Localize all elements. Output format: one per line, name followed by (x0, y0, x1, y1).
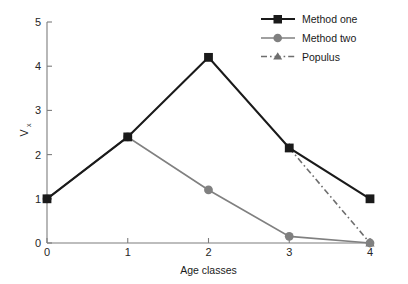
y-axis-title-subscript: x (25, 123, 32, 127)
series-method-one (43, 53, 375, 203)
y-axis-title: V (18, 129, 30, 136)
populus-line (289, 148, 370, 243)
y-tick-label-0: 0 (35, 237, 41, 249)
legend-marker-square-icon (274, 15, 283, 24)
chart-figure: 0 1 2 3 4 5 0 1 2 3 4 Age classes V x (0, 0, 408, 284)
data-point-marker (123, 133, 132, 142)
x-axis-title: Age classes (180, 264, 237, 276)
series-populus (285, 143, 375, 247)
data-point-marker (285, 144, 294, 153)
y-axis: 0 1 2 3 4 5 (35, 16, 52, 249)
data-point-marker (204, 186, 213, 195)
data-point-marker (285, 232, 294, 241)
legend-label-method-one: Method one (302, 13, 358, 25)
method-one-markers (43, 53, 375, 203)
legend-label-populus: Populus (302, 51, 340, 63)
x-tick-label-0: 0 (44, 246, 50, 258)
x-tick-label-1: 1 (125, 246, 131, 258)
x-tick-label-4: 4 (367, 246, 373, 258)
method-one-line (47, 57, 370, 198)
y-axis-title-group: V x (18, 123, 32, 137)
x-tick-label-3: 3 (286, 246, 292, 258)
data-point-marker (204, 53, 213, 62)
legend-label-method-two: Method two (302, 32, 356, 44)
legend-item-method-one[interactable]: Method one (261, 13, 358, 25)
y-tick-label-4: 4 (35, 60, 41, 72)
data-point-marker (43, 194, 52, 203)
x-tick-label-2: 2 (205, 246, 211, 258)
data-point-marker (366, 194, 375, 203)
legend-marker-triangle-icon (273, 52, 282, 59)
legend-item-populus[interactable]: Populus (261, 51, 340, 63)
legend-marker-circle-icon (273, 34, 282, 43)
y-tick-label-3: 3 (35, 104, 41, 116)
chart-legend: Method one Method two Populus (261, 13, 358, 63)
y-tick-label-5: 5 (35, 16, 41, 28)
legend-item-method-two[interactable]: Method two (261, 32, 356, 44)
y-tick-label-1: 1 (35, 193, 41, 205)
data-point-marker (366, 239, 375, 248)
chart-plot-area: 0 1 2 3 4 5 0 1 2 3 4 Age classes V x (0, 0, 408, 284)
y-tick-label-2: 2 (35, 149, 41, 161)
x-axis: 0 1 2 3 4 (44, 238, 373, 258)
